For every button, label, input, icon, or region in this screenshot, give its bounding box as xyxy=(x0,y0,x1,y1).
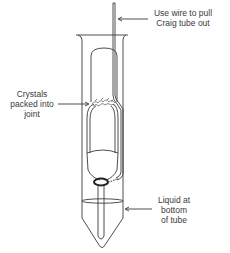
liquid-label-line3: of tube xyxy=(152,215,196,225)
wire-label: Use wire to pull Craig tube out xyxy=(148,8,218,28)
outer-tube-rim xyxy=(76,35,128,40)
crystals-label-line3: joint xyxy=(4,109,60,119)
liquid-label: Liquid at bottom of tube xyxy=(152,195,196,225)
liquid-label-line2: bottom xyxy=(152,205,196,215)
liquid-label-line1: Liquid at xyxy=(152,195,196,205)
plug-stem xyxy=(98,184,104,239)
crystals-label-line2: packed into xyxy=(4,99,60,109)
liquid-surface xyxy=(82,199,123,203)
crystals xyxy=(92,98,115,106)
plug-shoulder xyxy=(87,150,118,180)
inner-plug-lower xyxy=(87,104,118,153)
crystals-label: Crystals packed into joint xyxy=(4,89,60,119)
crystals-label-line1: Crystals xyxy=(4,89,60,99)
wire-label-line1: Use wire to pull xyxy=(148,8,218,18)
wire-label-line2: Craig tube out xyxy=(148,18,218,28)
plug-seal-ring xyxy=(94,179,108,186)
